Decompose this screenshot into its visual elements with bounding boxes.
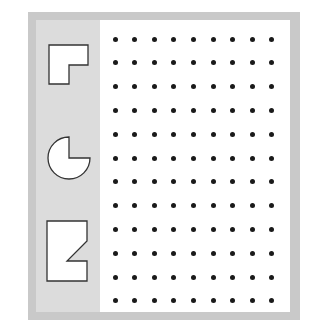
grid-dot: [250, 60, 255, 65]
grid-dot: [171, 227, 176, 232]
grid-dot: [230, 60, 235, 65]
grid-dot: [113, 108, 118, 113]
grid-dot: [132, 298, 137, 303]
grid-dot: [152, 37, 157, 42]
grid-dot: [191, 251, 196, 256]
grid-dot: [211, 84, 216, 89]
grid-dot: [113, 227, 118, 232]
grid-dot: [250, 275, 255, 280]
grid-dot: [171, 108, 176, 113]
grid-dot: [211, 37, 216, 42]
grid-dot: [152, 84, 157, 89]
notched-rectangle-icon: [46, 220, 90, 284]
grid-dot: [269, 275, 274, 280]
grid-dot: [152, 298, 157, 303]
grid-dot: [230, 251, 235, 256]
grid-dot: [132, 156, 137, 161]
grid-dot: [269, 84, 274, 89]
grid-dot: [132, 37, 137, 42]
grid-dot: [113, 179, 118, 184]
grid-dot: [113, 203, 118, 208]
grid-dot: [171, 251, 176, 256]
grid-dot: [191, 84, 196, 89]
grid-dot: [171, 60, 176, 65]
grid-dot: [230, 37, 235, 42]
grid-paper-frame: [28, 12, 300, 320]
grid-dot: [250, 37, 255, 42]
grid-dot: [132, 60, 137, 65]
grid-dot: [191, 132, 196, 137]
l-shape-icon: [48, 44, 90, 86]
grid-dot: [230, 298, 235, 303]
grid-dot: [211, 227, 216, 232]
grid-dot: [171, 179, 176, 184]
grid-dot: [152, 251, 157, 256]
grid-dot: [230, 179, 235, 184]
grid-dot: [113, 37, 118, 42]
grid-dot: [152, 108, 157, 113]
grid-dot: [152, 132, 157, 137]
grid-dot: [230, 227, 235, 232]
grid-dot: [132, 275, 137, 280]
grid-dot: [230, 108, 235, 113]
grid-dot: [171, 84, 176, 89]
grid-dot: [211, 108, 216, 113]
grid-dot: [230, 156, 235, 161]
grid-dot: [269, 251, 274, 256]
grid-dot: [152, 179, 157, 184]
grid-dot: [269, 203, 274, 208]
grid-dot: [171, 275, 176, 280]
grid-dot: [211, 203, 216, 208]
grid-dot: [132, 108, 137, 113]
grid-dot: [269, 156, 274, 161]
grid-dot: [191, 37, 196, 42]
grid-dot: [171, 156, 176, 161]
grid-dot: [191, 108, 196, 113]
grid-dot: [250, 203, 255, 208]
grid-dot: [132, 251, 137, 256]
grid-dot: [269, 37, 274, 42]
grid-dot: [211, 251, 216, 256]
grid-dot: [113, 298, 118, 303]
grid-dot: [191, 203, 196, 208]
grid-dot: [152, 227, 157, 232]
grid-dot: [191, 275, 196, 280]
grid-dot: [113, 84, 118, 89]
grid-dot: [211, 275, 216, 280]
grid-dot: [113, 156, 118, 161]
grid-dot: [171, 37, 176, 42]
grid-dot: [230, 84, 235, 89]
grid-dot: [191, 298, 196, 303]
grid-dot: [152, 60, 157, 65]
grid-dot: [269, 179, 274, 184]
grid-dot: [269, 108, 274, 113]
grid-dot: [113, 251, 118, 256]
grid-dot: [113, 60, 118, 65]
grid-dot: [269, 298, 274, 303]
grid-dot: [250, 251, 255, 256]
dot-grid-area: [100, 20, 290, 312]
grid-dot: [250, 108, 255, 113]
grid-dot: [269, 60, 274, 65]
grid-dot: [211, 179, 216, 184]
grid-dot: [211, 298, 216, 303]
grid-dot: [250, 84, 255, 89]
grid-dot: [250, 298, 255, 303]
grid-dot: [152, 275, 157, 280]
grid-dot: [152, 203, 157, 208]
grid-dot: [171, 203, 176, 208]
grid-dot: [132, 179, 137, 184]
grid-dot: [269, 132, 274, 137]
grid-dot: [211, 60, 216, 65]
grid-dot: [250, 156, 255, 161]
grid-dot: [211, 156, 216, 161]
grid-dot: [132, 227, 137, 232]
grid-dot: [132, 84, 137, 89]
grid-dot: [269, 227, 274, 232]
grid-dot: [191, 156, 196, 161]
grid-dot: [230, 132, 235, 137]
grid-dot: [250, 179, 255, 184]
grid-dot: [113, 275, 118, 280]
grid-dot: [152, 156, 157, 161]
grid-dot: [250, 227, 255, 232]
